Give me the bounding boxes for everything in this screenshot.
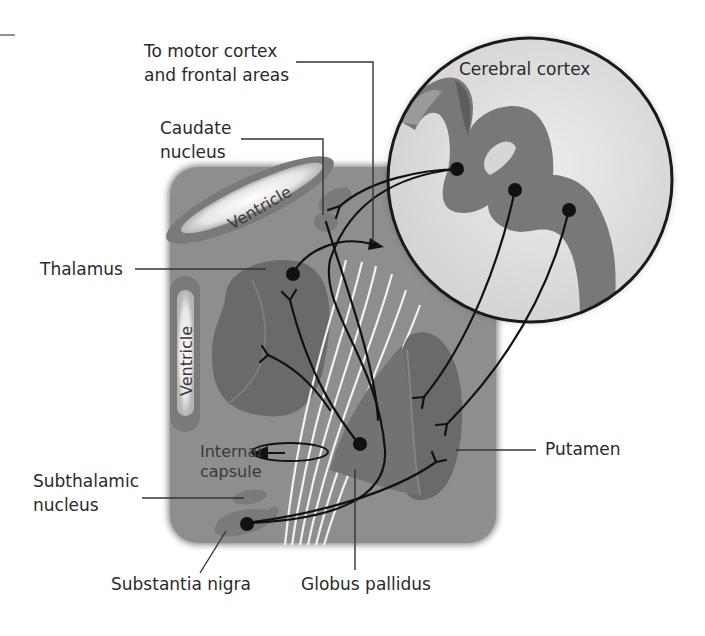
substantia-nigra-label: Substantia nigra (111, 574, 251, 594)
subthalamic-label-line1: Subthalamic (33, 471, 139, 491)
internal-capsule-label-line1: Internal (200, 442, 262, 461)
ventricle-left: Ventricle (170, 276, 200, 432)
ventricle-left-label: Ventricle (177, 326, 196, 396)
caudate-label-line2: nucleus (160, 142, 226, 162)
thalamus-label: Thalamus (39, 259, 123, 279)
thalamus-shape (212, 260, 330, 417)
cerebral-cortex-label: Cerebral cortex (459, 59, 590, 79)
putamen-label: Putamen (545, 439, 621, 459)
subthalamic-label-line2: nucleus (33, 495, 99, 515)
caudate-label-line1: Caudate (160, 118, 231, 138)
motor-cortex-label-line1: To motor cortex (143, 41, 277, 61)
internal-capsule-label-line2: capsule (200, 462, 262, 481)
basal-ganglia-diagram: Ventricle Ventricle (0, 0, 705, 636)
cerebral-cortex-inset: Cerebral cortex (386, 36, 674, 324)
globus-pallidus-label: Globus pallidus (301, 574, 431, 594)
motor-cortex-label-line2: and frontal areas (144, 65, 289, 85)
